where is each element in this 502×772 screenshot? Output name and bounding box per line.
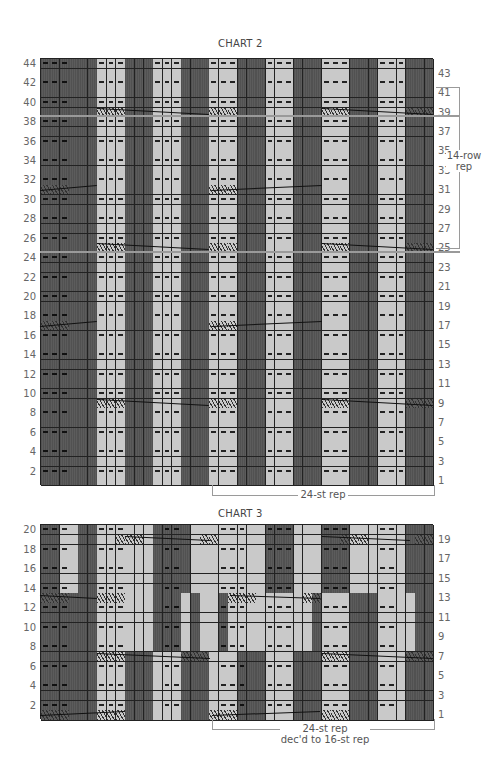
stitch-cell	[181, 593, 191, 603]
stitch-cell	[378, 457, 388, 467]
stitch-cell	[125, 282, 135, 292]
stitch-cell	[116, 447, 126, 457]
stitch-cell	[294, 282, 304, 292]
stitch-cell	[153, 292, 163, 302]
stitch-cell	[144, 623, 154, 633]
stitch-cell	[312, 78, 322, 88]
purl-symbol	[155, 217, 160, 219]
stitch-cell	[312, 340, 322, 350]
stitch-cell	[415, 311, 425, 321]
purl-symbol	[268, 470, 273, 472]
purl-symbol	[118, 626, 123, 628]
stitch-cell	[322, 321, 332, 331]
purl-symbol	[389, 373, 394, 375]
purl-symbol	[389, 334, 394, 336]
stitch-cell	[50, 350, 60, 360]
stitch-cell	[228, 205, 238, 215]
stitch-cell	[322, 671, 332, 681]
stitch-cell	[125, 525, 135, 535]
stitch-cell	[340, 370, 350, 380]
purl-symbol	[342, 81, 347, 83]
stitch-cell	[331, 632, 341, 642]
stitch-cell	[191, 127, 201, 137]
stitch-cell	[135, 457, 145, 467]
stitch-cell	[266, 545, 276, 555]
purl-symbol	[221, 353, 226, 355]
purl-symbol	[165, 587, 170, 589]
stitch-cell	[153, 311, 163, 321]
purl-symbol	[342, 470, 347, 472]
stitch-cell	[359, 59, 369, 69]
purl-symbol	[174, 217, 179, 219]
stitch-cell	[340, 632, 350, 642]
purl-symbol	[221, 159, 226, 161]
stitch-cell	[284, 214, 294, 224]
stitch-cell	[294, 146, 304, 156]
stitch-cell	[359, 185, 369, 195]
stitch-cell	[125, 137, 135, 147]
stitch-cell	[350, 408, 360, 418]
stitch-cell	[387, 340, 397, 350]
stitch-cell	[256, 253, 266, 263]
stitch-cell	[60, 418, 70, 428]
stitch-cell	[266, 564, 276, 574]
stitch-cell	[163, 253, 173, 263]
stitch-cell	[219, 642, 229, 652]
stitch-cell	[359, 447, 369, 457]
stitch-cell	[397, 292, 407, 302]
stitch-cell	[284, 156, 294, 166]
stitch-cell	[97, 302, 107, 312]
stitch-cell	[322, 457, 332, 467]
stitch-cell	[144, 428, 154, 438]
stitch-cell	[209, 428, 219, 438]
stitch-cell	[69, 701, 79, 711]
stitch-cell	[88, 701, 98, 711]
stitch-cell	[153, 78, 163, 88]
row-number: 7	[438, 651, 460, 662]
stitch-cell	[266, 370, 276, 380]
stitch-cell	[275, 311, 285, 321]
stitch-cell	[275, 632, 285, 642]
stitch-cell	[322, 273, 332, 283]
stitch-cell	[294, 370, 304, 380]
stitch-cell	[275, 457, 285, 467]
stitch-cell	[350, 681, 360, 691]
stitch-cell	[228, 701, 238, 711]
stitch-cell	[228, 389, 238, 399]
stitch-cell	[116, 214, 126, 224]
stitch-cell	[97, 282, 107, 292]
purl-symbol	[399, 62, 404, 64]
stitch-cell	[144, 224, 154, 234]
stitch-cell	[350, 146, 360, 156]
stitch-cell	[397, 701, 407, 711]
purl-symbol	[286, 528, 291, 530]
stitch-cell	[69, 263, 79, 273]
purl-symbol	[43, 178, 48, 180]
stitch-cell	[359, 584, 369, 594]
stitch-cell	[144, 234, 154, 244]
stitch-cell	[191, 253, 201, 263]
stitch-cell	[116, 175, 126, 185]
stitch-cell	[144, 175, 154, 185]
stitch-cell	[387, 292, 397, 302]
stitch-cell	[312, 156, 322, 166]
stitch-cell	[153, 350, 163, 360]
stitch-cell	[406, 554, 416, 564]
purl-symbol	[52, 178, 57, 180]
stitch-cell	[350, 117, 360, 127]
stitch-cell	[78, 574, 88, 584]
stitch-cell	[69, 399, 79, 409]
stitch-cell	[425, 311, 435, 321]
stitch-cell	[88, 535, 98, 545]
stitch-cell	[415, 428, 425, 438]
stitch-cell	[275, 437, 285, 447]
stitch-cell	[331, 69, 341, 79]
stitch-cell	[144, 691, 154, 701]
purl-symbol	[389, 704, 394, 706]
stitch-cell	[378, 399, 388, 409]
stitch-cell	[135, 137, 145, 147]
stitch-cell	[125, 642, 135, 652]
stitch-cell	[340, 623, 350, 633]
stitch-cell	[219, 263, 229, 273]
purl-symbol	[230, 431, 235, 433]
